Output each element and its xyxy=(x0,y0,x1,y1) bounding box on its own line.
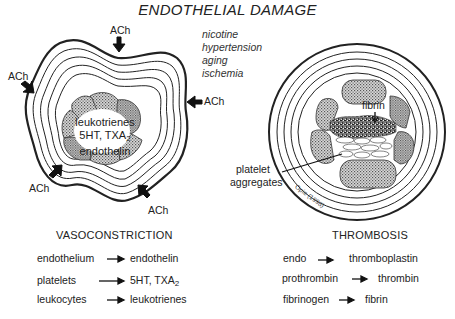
vaso-row-3-to: leukotrienes xyxy=(130,293,187,305)
thrombo-row-1-to: thromboplastin xyxy=(349,252,418,264)
arrow-right-icon xyxy=(21,81,34,93)
thrombo-row-2-from: prothrombin xyxy=(282,272,338,284)
vaso-row-1-from: endothelium xyxy=(37,252,94,264)
cause-item: aging xyxy=(202,54,262,67)
arrow-down-icon xyxy=(113,37,125,52)
page-title: ENDOTHELIAL DAMAGE xyxy=(0,1,455,18)
ach-label-top: ACh xyxy=(110,24,130,36)
thrombo-row-3-from: fibrinogen xyxy=(283,293,329,305)
fibrin-mesh xyxy=(330,115,396,138)
ach-label-right: ACh xyxy=(204,95,224,107)
thrombosis-heading: THROMBOSIS xyxy=(332,229,408,241)
thrombo-row-2-to: thrombin xyxy=(378,272,419,284)
cause-item: hypertension xyxy=(202,41,262,54)
lumen-label-leukotrienes: leukotrienes xyxy=(70,116,140,129)
ach-label-upper-left: ACh xyxy=(8,70,28,82)
vaso-row-2-from: platelets xyxy=(37,274,76,286)
vaso-row-3-from: leukocytes xyxy=(37,293,87,305)
platelet-aggregates xyxy=(336,137,392,158)
cause-item: ischemia xyxy=(202,67,262,80)
vaso-row-2-to: 5HT, TXA2 xyxy=(130,274,179,288)
arrow-upright-icon xyxy=(49,165,62,178)
thrombo-row-3-to: fibrin xyxy=(365,293,388,305)
fibrin-label: fibrin xyxy=(362,99,385,111)
cause-item: nicotine xyxy=(202,28,262,41)
lumen-labels: leukotrienes 5HT, TXA2 endothelin xyxy=(70,116,140,158)
lumen-label-5ht-txa2: 5HT, TXA2 xyxy=(70,129,140,145)
thrombo-row-1-from: endo xyxy=(283,252,306,264)
platelet-label-line1: platelet xyxy=(236,163,270,175)
arrow-left-icon xyxy=(187,96,202,108)
ach-label-lower-right: ACh xyxy=(148,204,168,216)
lumen-label-endothelin: endothelin xyxy=(70,145,140,158)
causes-list: nicotine hypertension aging ischemia xyxy=(202,28,262,80)
vaso-row-1-to: endothelin xyxy=(130,252,178,264)
vasoconstriction-heading: VASOCONSTRICTION xyxy=(56,229,173,241)
platelet-label-line2: aggregates xyxy=(230,176,283,188)
ach-label-lower-left: ACh xyxy=(29,182,49,194)
thrombus xyxy=(330,115,396,158)
